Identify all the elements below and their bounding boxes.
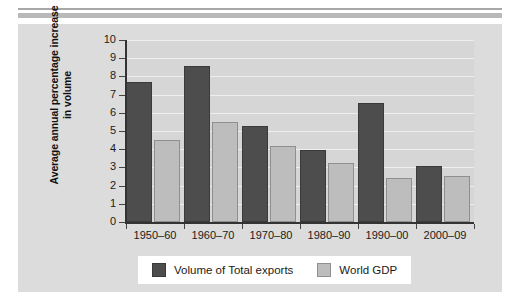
y-axis-tick-label: 10 xyxy=(90,34,116,45)
legend-swatch xyxy=(152,263,166,277)
bar xyxy=(300,150,326,222)
legend-item: World GDP xyxy=(317,263,397,277)
legend-swatch xyxy=(317,263,331,277)
legend-label: World GDP xyxy=(339,264,397,276)
bar xyxy=(242,126,268,222)
y-axis-line xyxy=(125,40,127,223)
x-axis-tick-label: 1980–90 xyxy=(299,229,359,242)
bar-group xyxy=(300,40,354,222)
bar xyxy=(358,103,384,222)
x-axis-tick-label: 1970–80 xyxy=(241,229,301,242)
chart-figure: Average annual percentage increase in vo… xyxy=(0,0,520,302)
y-axis-title: Average annual percentage increase in vo… xyxy=(48,4,74,186)
bar xyxy=(154,140,180,222)
bar-group xyxy=(242,40,296,222)
x-axis-tick-label: 2000–09 xyxy=(415,229,475,242)
bar xyxy=(126,82,152,222)
y-axis-tick-label: 0 xyxy=(90,216,116,227)
plot-area xyxy=(126,40,474,222)
bar xyxy=(444,176,470,222)
y-axis-tick-label: 1 xyxy=(90,198,116,209)
x-axis-tick-label: 1950–60 xyxy=(125,229,185,242)
x-axis-tick-label: 1960–70 xyxy=(183,229,243,242)
bar-group xyxy=(358,40,412,222)
bar xyxy=(212,122,238,222)
y-axis-tick-label: 6 xyxy=(90,107,116,118)
y-axis-tick-label: 5 xyxy=(90,125,116,136)
y-axis-tick-label: 7 xyxy=(90,89,116,100)
y-axis-tick-label: 9 xyxy=(90,52,116,63)
top-rule-thin xyxy=(18,8,502,10)
y-axis-tick-label: 8 xyxy=(90,70,116,81)
x-axis-tick-label: 1990–00 xyxy=(357,229,417,242)
legend-label: Volume of Total exports xyxy=(174,264,293,276)
bar xyxy=(386,178,412,222)
top-rule-thick xyxy=(18,13,502,18)
y-axis-tick-label: 2 xyxy=(90,180,116,191)
bar xyxy=(416,166,442,222)
bar-group xyxy=(126,40,180,222)
bar xyxy=(328,163,354,222)
y-axis-tick-label: 3 xyxy=(90,161,116,172)
bar-group xyxy=(184,40,238,222)
legend-item: Volume of Total exports xyxy=(152,263,293,277)
bar xyxy=(184,66,210,222)
y-axis-tick-label: 4 xyxy=(90,143,116,154)
chart-legend: Volume of Total exportsWorld GDP xyxy=(138,256,411,284)
bar-group xyxy=(416,40,470,222)
bar xyxy=(270,146,296,222)
chart-panel: Average annual percentage increase in vo… xyxy=(18,24,502,292)
